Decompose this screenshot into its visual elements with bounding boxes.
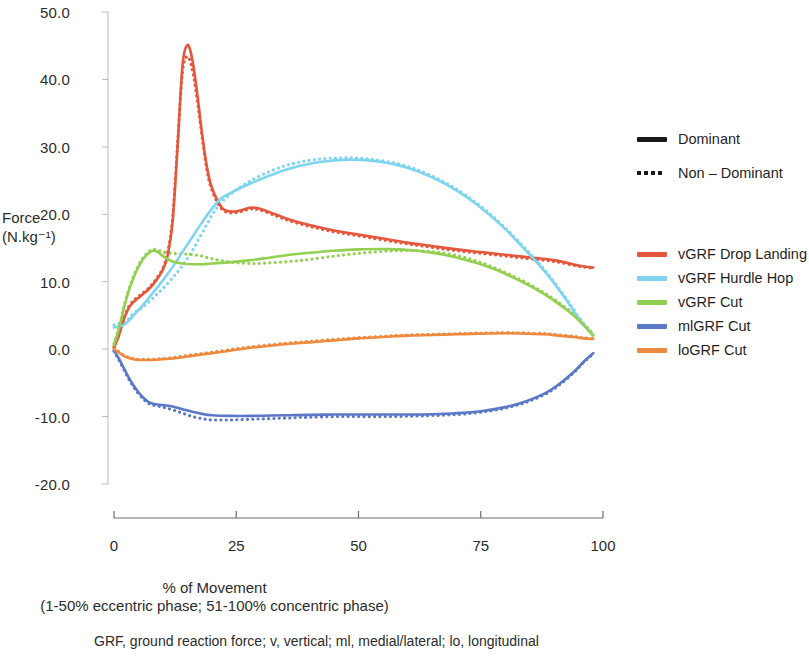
y-axis-title-line1: Force	[2, 208, 56, 227]
series-legend: vGRF Drop LandingvGRF Hurdle HopvGRF Cut…	[637, 242, 809, 362]
x-axis-title-text: % of Movement	[162, 579, 266, 596]
series-line	[114, 350, 593, 415]
figure-caption-text: GRF, ground reaction force; v, vertical;…	[94, 633, 539, 649]
y-axis-ticks: 50.040.030.020.010.00.0-10.0-20.0	[8, 0, 70, 659]
legend-item-series: vGRF Cut	[637, 290, 809, 314]
series-line	[114, 158, 593, 334]
x-axis-title: % of Movement	[0, 578, 619, 598]
series-line	[114, 45, 593, 348]
y-tick-label: 10.0	[8, 275, 70, 290]
y-tick-label: 30.0	[8, 140, 70, 155]
y-tick-label: 40.0	[8, 72, 70, 87]
series-line	[114, 249, 593, 345]
legend-label-series: vGRF Hurdle Hop	[678, 270, 793, 286]
solid-line-icon	[637, 132, 667, 146]
x-tick-label: 75	[472, 538, 489, 553]
series-line	[114, 56, 593, 346]
x-axis-subtitle: (1-50% eccentric phase; 51-100% concentr…	[0, 596, 619, 616]
series-color-icon	[637, 343, 667, 357]
legend-label-series: vGRF Cut	[678, 294, 742, 310]
series-line	[114, 333, 593, 360]
legend-item-dominant: Dominant	[637, 122, 809, 156]
legend-label-series: loGRF Cut	[678, 342, 747, 358]
series-color-icon	[637, 295, 667, 309]
x-axis-subtitle-text: (1-50% eccentric phase; 51-100% concentr…	[40, 597, 389, 614]
x-tick-label: 0	[110, 538, 118, 553]
y-axis-title-line2: (N.kg⁻¹)	[2, 227, 56, 246]
x-tick-label: 25	[228, 538, 245, 553]
x-tick-label: 50	[350, 538, 367, 553]
legend-item-series: loGRF Cut	[637, 338, 809, 362]
legend-item-non-dominant: Non – Dominant	[637, 156, 809, 190]
series-color-icon	[637, 319, 667, 333]
y-axis-title: Force (N.kg⁻¹)	[2, 208, 56, 246]
legend-label-non-dominant: Non – Dominant	[678, 165, 783, 181]
y-tick-label: 50.0	[8, 5, 70, 20]
figure-caption: GRF, ground reaction force; v, vertical;…	[0, 632, 721, 650]
series-line	[114, 333, 593, 360]
legend-item-series: vGRF Drop Landing	[637, 242, 809, 266]
series-line	[114, 160, 593, 335]
legend-label-series: mlGRF Cut	[678, 318, 751, 334]
figure: 50.040.030.020.010.00.0-10.0-20.0 Force …	[0, 0, 809, 659]
legend-label-series: vGRF Drop Landing	[678, 246, 807, 262]
series-color-icon	[637, 271, 667, 285]
series-line	[114, 249, 593, 344]
series-line	[114, 351, 593, 420]
y-tick-label: -20.0	[8, 477, 70, 492]
legend: Dominant Non – Dominant vGRF Drop Landin…	[637, 122, 809, 362]
x-tick-label: 100	[590, 538, 615, 553]
legend-item-series: mlGRF Cut	[637, 314, 809, 338]
legend-item-series: vGRF Hurdle Hop	[637, 266, 809, 290]
y-tick-label: -10.0	[8, 410, 70, 425]
legend-spacer	[637, 190, 809, 242]
legend-label-dominant: Dominant	[678, 131, 740, 147]
series-color-icon	[637, 247, 667, 261]
y-tick-label: 0.0	[8, 342, 70, 357]
dotted-line-icon	[637, 166, 667, 180]
